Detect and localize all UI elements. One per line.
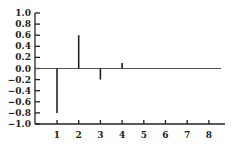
stems xyxy=(57,35,122,113)
y-tick-label: 0.2 xyxy=(15,52,31,62)
y-tick-label: −0.4 xyxy=(8,86,31,96)
y-tick-label: −0.6 xyxy=(8,97,31,107)
x-tick-label: 5 xyxy=(141,130,147,140)
x-tick-label: 6 xyxy=(162,130,168,140)
x-tick-label: 4 xyxy=(119,130,125,140)
y-tick-label: 0.8 xyxy=(15,19,31,29)
y-tick-label: 0.0 xyxy=(15,64,31,74)
y-tick-label: 0.4 xyxy=(15,41,31,51)
x-tick-label: 7 xyxy=(184,130,190,140)
y-tick-label: 0.6 xyxy=(15,30,31,40)
x-tick-label: 3 xyxy=(97,130,103,140)
stem-chart: 1.00.80.60.40.20.0−0.2−0.4−0.6−0.8−1.0 1… xyxy=(0,0,234,150)
y-tick-label: −0.2 xyxy=(8,75,31,85)
x-axis: 12345678 xyxy=(35,120,225,140)
x-tick-label: 2 xyxy=(76,130,82,140)
x-tick-label: 1 xyxy=(54,130,60,140)
x-tick-label: 8 xyxy=(206,130,212,140)
y-tick-label: −0.8 xyxy=(8,108,31,118)
y-tick-label: −1.0 xyxy=(8,119,31,129)
y-tick-label: 1.0 xyxy=(15,8,31,18)
